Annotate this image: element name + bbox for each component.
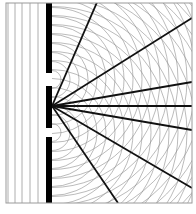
maximum-line [52,82,192,106]
circular-wavefront-arc [43,71,61,89]
plane-wavefronts [8,3,38,203]
circular-wavefront-arc [0,79,106,187]
double-slit-barrier [46,3,52,203]
barrier-segment [46,137,52,203]
circular-wavefront-arc [0,17,115,143]
barrier-segment [46,86,52,128]
circular-wavefront-arc [0,26,106,134]
circular-wavefront-arc [0,34,151,214]
double-slit-diagram [0,0,196,213]
circular-wavefront-arc [0,0,142,170]
barrier-segment [46,3,52,73]
maximum-line [52,106,118,203]
circular-wavefront-arc [0,43,142,214]
diagram-frame [6,3,192,203]
circular-wavefront-arc [0,16,169,214]
